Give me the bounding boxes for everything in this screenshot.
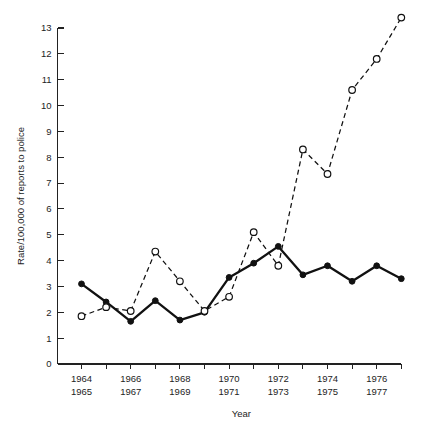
data-point-marker xyxy=(251,260,257,266)
x-axis-tick-label-bottom: 1965 xyxy=(71,386,92,397)
data-point-marker xyxy=(177,278,184,285)
data-point-marker xyxy=(177,317,183,323)
y-axis-tick-label: 0 xyxy=(46,358,51,369)
data-point-marker xyxy=(324,171,331,178)
data-point-marker xyxy=(127,308,134,315)
data-point-marker xyxy=(300,146,307,153)
x-axis-tick-label-bottom: 1975 xyxy=(317,386,338,397)
data-point-marker xyxy=(275,262,282,269)
data-point-marker xyxy=(79,281,85,287)
data-point-marker xyxy=(325,263,331,269)
x-axis-title: Year xyxy=(232,408,251,419)
data-point-marker xyxy=(349,87,356,94)
data-point-marker xyxy=(226,293,233,300)
data-point-marker xyxy=(373,56,380,63)
data-point-marker xyxy=(201,308,208,315)
x-axis-tick-label-top: 1974 xyxy=(317,373,338,384)
y-axis-tick-label: 11 xyxy=(42,74,52,85)
y-axis-tick-label: 1 xyxy=(46,333,51,344)
y-axis-tick-label: 9 xyxy=(46,126,51,137)
data-point-marker xyxy=(152,248,159,255)
data-point-marker xyxy=(300,272,306,278)
y-axis-tick-label: 4 xyxy=(46,255,51,266)
y-axis-tick-label: 3 xyxy=(46,281,51,292)
y-axis-tick-label: 7 xyxy=(46,177,51,188)
x-axis-tick-label-bottom: 1971 xyxy=(219,386,240,397)
x-axis-tick-label-top: 1976 xyxy=(366,373,387,384)
data-point-marker xyxy=(152,298,158,304)
y-axis-tick-label: 8 xyxy=(46,152,51,163)
data-point-marker xyxy=(398,276,404,282)
y-axis-tick-label: 10 xyxy=(41,100,52,111)
x-axis-tick-label-bottom: 1977 xyxy=(366,386,387,397)
data-point-marker xyxy=(398,14,405,21)
data-point-marker xyxy=(374,263,380,269)
data-point-marker xyxy=(103,304,110,311)
y-axis-tick-label: 5 xyxy=(46,229,51,240)
y-axis-tick-label: 2 xyxy=(46,307,51,318)
x-axis-tick-label-top: 1964 xyxy=(71,373,92,384)
chart-figure: 012345678910111213 196419651966196719681… xyxy=(0,0,440,426)
data-point-marker xyxy=(250,229,257,236)
data-point-marker xyxy=(349,278,355,284)
data-point-marker xyxy=(128,318,134,324)
data-point-marker xyxy=(226,275,232,281)
y-axis-tick-label: 13 xyxy=(41,22,52,33)
data-point-marker xyxy=(275,243,281,249)
x-axis-tick-label-top: 1970 xyxy=(219,373,240,384)
x-axis-tick-label-top: 1968 xyxy=(169,373,190,384)
x-axis-tick-label-bottom: 1973 xyxy=(268,386,289,397)
line-chart-canvas: 012345678910111213 196419651966196719681… xyxy=(0,0,440,426)
x-axis-tick-label-top: 1972 xyxy=(268,373,289,384)
data-point-marker xyxy=(78,313,85,320)
y-axis-tick-label: 6 xyxy=(46,203,51,214)
chart-background xyxy=(0,0,440,426)
x-axis-tick-label-bottom: 1969 xyxy=(169,386,190,397)
x-axis-tick-label-top: 1966 xyxy=(120,373,141,384)
y-axis-title: Rate/100,000 of reports to police xyxy=(15,127,26,265)
x-axis-tick-label-bottom: 1967 xyxy=(120,386,141,397)
y-axis-tick-label: 12 xyxy=(41,48,52,59)
